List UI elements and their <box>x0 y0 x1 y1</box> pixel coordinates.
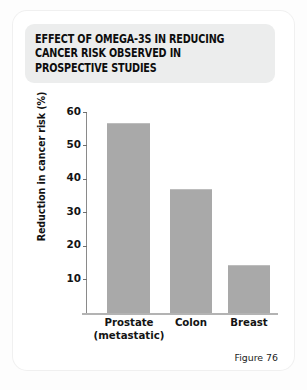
y-tick-mark-60 <box>83 112 87 113</box>
y-tick-label-10: 10 <box>51 272 81 284</box>
chart-plot-area: Reduction in cancer risk (%) 60 50 40 30… <box>13 11 294 370</box>
x-axis-line <box>82 313 278 315</box>
y-tick-label-50: 50 <box>51 138 81 150</box>
y-tick-label-60: 60 <box>51 105 81 117</box>
y-tick-mark-20 <box>83 246 87 247</box>
y-tick-label-20: 20 <box>51 238 81 250</box>
bar-prostate <box>107 123 150 313</box>
x-tick-label-colon: Colon <box>159 317 223 330</box>
x-tick-label-prostate: Prostate (metastatic) <box>93 317 165 342</box>
y-tick-label-40: 40 <box>51 171 81 183</box>
bar-breast <box>228 265 270 313</box>
y-tick-mark-30 <box>83 212 87 213</box>
y-axis-title: Reduction in cancer risk (%) <box>36 77 47 257</box>
y-tick-mark-10 <box>83 279 87 280</box>
x-tick-label-breast: Breast <box>217 317 281 330</box>
y-tick-mark-40 <box>83 179 87 180</box>
y-tick-label-30: 30 <box>51 205 81 217</box>
bar-colon <box>170 189 212 313</box>
figure-card: EFFECT OF OMEGA-3S IN REDUCING CANCER RI… <box>13 11 294 370</box>
figure-caption: Figure 76 <box>234 352 278 363</box>
y-tick-mark-50 <box>83 145 87 146</box>
